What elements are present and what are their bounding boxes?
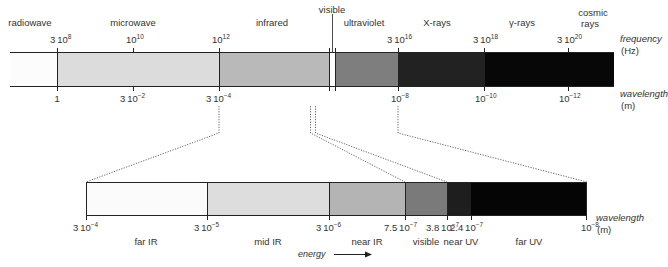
- tick-base: 10: [475, 93, 486, 104]
- frequency-tick-label: 3 1020: [557, 34, 582, 45]
- tick-base: 10: [559, 93, 570, 104]
- wavelength-tick-label: 3 10−2: [120, 93, 145, 104]
- tick-exponent: −10: [486, 92, 497, 99]
- wavelength-tick-label: 2.4 10−7: [450, 222, 483, 233]
- tick-exponent: −4: [91, 221, 98, 228]
- tick-exponent: −7: [476, 221, 483, 228]
- wavelength-tick-label: 10−8: [581, 222, 599, 233]
- tick-base: 10: [127, 93, 138, 104]
- frequency-tick-label: 3 1018: [473, 34, 498, 45]
- tick-exponent: −6: [334, 221, 341, 228]
- tick-base: 10: [323, 222, 334, 233]
- wavelength-tick-label: 3 10−5: [194, 222, 219, 233]
- tick-coefficient: 1: [55, 93, 60, 104]
- wavelength-tick-label: 1: [55, 93, 60, 104]
- tick-exponent: 12: [223, 33, 230, 40]
- tick-exponent: −7: [410, 221, 417, 228]
- frequency-tick-label: 3 108: [50, 34, 71, 45]
- wavelength-tick-label: 3 10−4: [73, 222, 98, 233]
- energy-arrow-icon: [334, 252, 372, 258]
- tick-base: 10: [394, 34, 405, 45]
- tick-exponent: 20: [575, 33, 582, 40]
- tick-exponent: −8: [402, 92, 409, 99]
- dotted-zoom-projection: [86, 106, 587, 182]
- tick-base: 10: [581, 222, 592, 233]
- tick-coefficient: 2.4: [450, 222, 465, 233]
- frequency-tick-label: 1010: [126, 34, 144, 45]
- tick-coefficient: 3.8: [426, 222, 441, 233]
- tick-exponent: 16: [405, 33, 412, 40]
- tick-exponent: −4: [224, 92, 231, 99]
- tick-base: 10: [391, 93, 402, 104]
- tick-base: 10: [480, 34, 491, 45]
- tick-base: 10: [201, 222, 212, 233]
- frequency-tick-label: 1012: [212, 34, 230, 45]
- wavelength-tick-label: 3 10−6: [316, 222, 341, 233]
- tick-base: 10: [213, 93, 224, 104]
- tick-exponent: 10: [137, 33, 144, 40]
- wavelength-tick-label: 7.5 10−7: [384, 222, 417, 233]
- tick-base: 10: [80, 222, 91, 233]
- wavelength-tick-label: 10−10: [475, 93, 497, 104]
- tick-base: 10: [212, 34, 223, 45]
- tick-exponent: −12: [570, 92, 581, 99]
- tick-exponent: 8: [68, 33, 72, 40]
- tick-base: 10: [465, 222, 476, 233]
- tick-exponent: −8: [592, 221, 599, 228]
- wavelength-tick-label: 3 10−4: [206, 93, 231, 104]
- wavelength-tick-label: 10−8: [391, 93, 409, 104]
- wavelength-tick-label: 10−12: [559, 93, 581, 104]
- tick-exponent: −5: [212, 221, 219, 228]
- frequency-tick-label: 3 1016: [387, 34, 412, 45]
- tick-base: 10: [399, 222, 410, 233]
- tick-exponent: 18: [491, 33, 498, 40]
- tick-exponent: −2: [138, 92, 145, 99]
- tick-base: 10: [564, 34, 575, 45]
- tick-base: 10: [57, 34, 68, 45]
- tick-base: 10: [126, 34, 137, 45]
- tick-coefficient: 7.5: [384, 222, 399, 233]
